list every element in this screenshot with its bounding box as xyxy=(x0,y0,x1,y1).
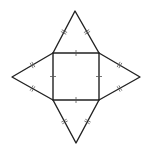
triangle-face-right xyxy=(99,53,140,100)
base-square xyxy=(53,53,99,100)
congruence-ticks xyxy=(30,30,122,124)
square-pyramid-net-diagram xyxy=(0,0,148,151)
triangle-face-left xyxy=(12,53,53,100)
net-shapes xyxy=(12,11,140,143)
triangle-face-bottom xyxy=(53,100,99,143)
triangle-face-top xyxy=(53,11,99,53)
